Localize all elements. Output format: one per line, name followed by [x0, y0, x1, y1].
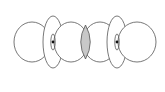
- right-atom-outer-lobe: [118, 22, 156, 62]
- right-nucleus: [116, 41, 119, 44]
- left-nucleus: [52, 41, 55, 44]
- orbital-overlap-diagram: [0, 0, 165, 92]
